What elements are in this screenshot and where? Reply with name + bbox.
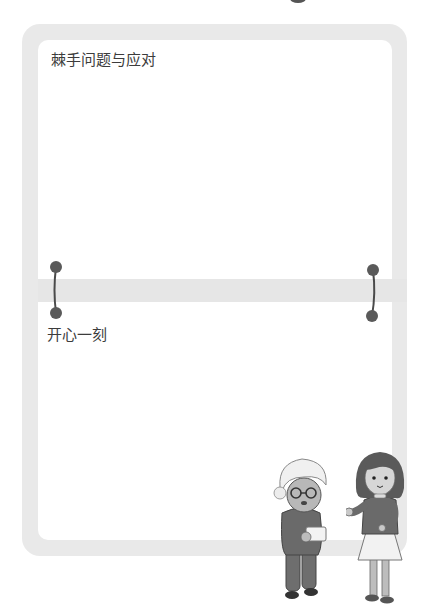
section-difficult-problems[interactable] <box>38 40 392 279</box>
binder-ring-icon-right <box>364 262 382 326</box>
section-title-difficult-problems: 棘手问题与应对 <box>51 48 156 69</box>
binder-ring-icon-left <box>48 259 66 323</box>
grandmother-illustration <box>268 455 343 605</box>
top-decoration <box>290 0 306 3</box>
girl-illustration <box>346 448 416 608</box>
section-divider <box>38 279 407 302</box>
section-title-happy-moment: 开心一刻 <box>47 323 107 344</box>
